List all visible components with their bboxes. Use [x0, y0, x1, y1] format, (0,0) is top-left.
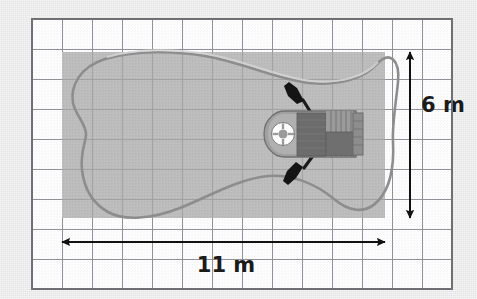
- diagram-canvas: 6 m 11 m: [0, 0, 477, 299]
- stern-transom: [353, 113, 363, 155]
- life-ring: [272, 123, 295, 146]
- life-ring-inner: [278, 129, 287, 138]
- rear-seat-block: [326, 132, 354, 156]
- scale-diagram-figure: 6 m 11 m: [0, 0, 477, 299]
- forward-seat-block: [297, 113, 326, 156]
- height-dimension-label: 6 m: [421, 93, 465, 117]
- width-dimension-label: 11 m: [197, 253, 255, 277]
